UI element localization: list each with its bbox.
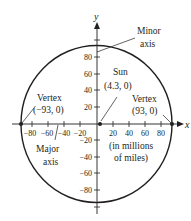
ellipse-orbit-diagram: x y −80 −60 −40 −20 20 40 60 80 80 60 40… xyxy=(0,0,191,221)
svg-text:−80: −80 xyxy=(79,186,92,195)
left-vertex-coords: (−93, 0) xyxy=(33,105,64,116)
minor-axis-leader xyxy=(97,38,135,52)
svg-text:−40: −40 xyxy=(58,129,71,138)
y-axis-arrow-icon xyxy=(94,22,100,29)
svg-text:−80: −80 xyxy=(24,129,37,138)
right-vertex-label: Vertex xyxy=(132,94,157,104)
svg-text:40: 40 xyxy=(125,129,133,138)
y-axis xyxy=(94,22,100,214)
x-axis-arrow-icon xyxy=(177,121,184,127)
svg-text:60: 60 xyxy=(141,129,149,138)
svg-text:20: 20 xyxy=(84,103,92,112)
units-label-line2: of miles) xyxy=(114,153,148,164)
units-label-line1: (in millions xyxy=(109,141,153,152)
sun-point xyxy=(98,122,102,126)
sun-label: Sun xyxy=(113,67,128,77)
x-tick-labels: −80 −60 −40 −20 20 40 60 80 xyxy=(24,129,165,138)
major-axis-label-line1: Major xyxy=(36,144,60,154)
svg-text:80: 80 xyxy=(84,53,92,62)
minor-axis-label-line2: axis xyxy=(140,39,156,49)
svg-text:80: 80 xyxy=(157,129,165,138)
y-axis-label: y xyxy=(93,11,99,22)
major-axis-label-line2: axis xyxy=(43,157,59,167)
svg-text:−20: −20 xyxy=(79,136,92,145)
svg-text:−60: −60 xyxy=(41,129,54,138)
svg-text:−60: −60 xyxy=(79,169,92,178)
svg-text:−40: −40 xyxy=(79,153,92,162)
minor-axis-label-line1: Minor xyxy=(137,26,162,36)
right-vertex-leader xyxy=(163,115,171,123)
right-vertex-coords: (93, 0) xyxy=(132,106,157,117)
svg-text:40: 40 xyxy=(84,86,92,95)
x-axis-label: x xyxy=(184,119,190,130)
left-vertex-label: Vertex xyxy=(37,93,62,103)
svg-text:20: 20 xyxy=(109,129,117,138)
sun-leader xyxy=(101,97,117,121)
svg-text:60: 60 xyxy=(84,70,92,79)
sun-coords: (4.3, 0) xyxy=(104,81,132,92)
